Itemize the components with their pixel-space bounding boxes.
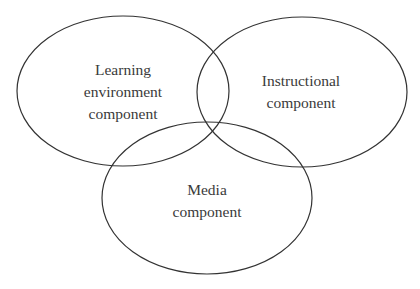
media-label: Media component: [173, 179, 242, 223]
label-line: component: [173, 201, 242, 223]
label-line: Learning: [84, 59, 162, 81]
label-line: component: [262, 92, 340, 114]
label-line: environment: [84, 81, 162, 103]
instructional-label: Instructional component: [262, 70, 340, 114]
learning-environment-label: Learning environment component: [84, 59, 162, 125]
label-line: Media: [173, 179, 242, 201]
label-line: Instructional: [262, 70, 340, 92]
label-line: component: [84, 103, 162, 125]
venn-diagram: [0, 0, 420, 289]
